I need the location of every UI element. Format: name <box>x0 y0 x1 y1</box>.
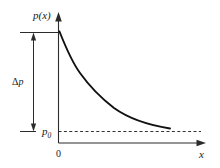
pressure-decay-figure: p(x) x 0 p0 Δp <box>0 0 220 168</box>
delta-p-label: Δp <box>12 76 23 87</box>
delta-variable: p <box>17 76 23 87</box>
decay-curve <box>60 32 171 129</box>
y-axis-arrowhead <box>55 12 62 22</box>
x-axis <box>59 140 207 146</box>
x-axis-arrowhead <box>197 140 207 146</box>
svg-text:p0: p0 <box>41 125 52 140</box>
p0-label-subscript: 0 <box>48 131 52 140</box>
y-axis-label: p(x) <box>32 9 51 22</box>
y-axis <box>55 12 62 143</box>
delta-p-measure-arrow <box>31 33 36 132</box>
x-axis-label: x <box>198 148 204 160</box>
svg-text:Δp: Δp <box>12 76 23 87</box>
p0-label: p0 <box>41 125 52 140</box>
origin-label: 0 <box>56 148 61 159</box>
delta-p-upper-arrowhead <box>31 33 36 41</box>
delta-p-lower-arrowhead <box>31 124 36 132</box>
